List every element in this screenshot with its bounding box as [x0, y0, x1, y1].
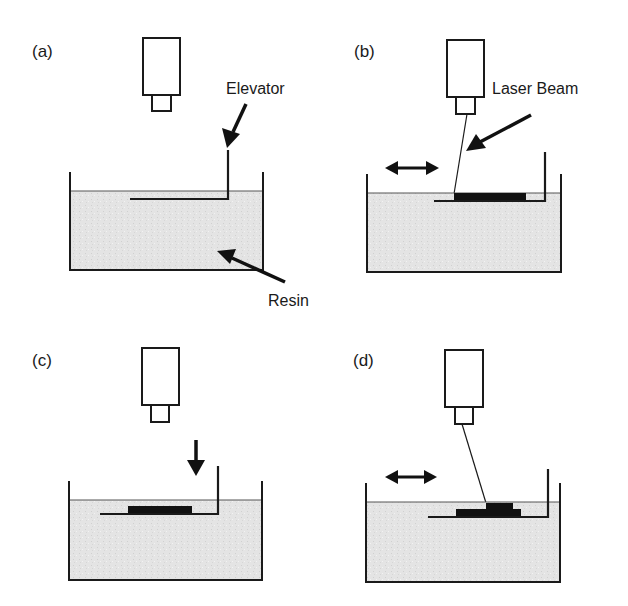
panel-b: (b) Laser Beam: [354, 40, 578, 272]
panel-label-a: (a): [32, 42, 53, 61]
elevator-label: Elevator: [226, 80, 285, 97]
double-arrow-icon: [385, 470, 437, 484]
laser-beam-line: [462, 424, 486, 503]
panel-label-c: (c): [32, 351, 52, 370]
laser-unit-icon: [445, 350, 483, 424]
resin-label: Resin: [268, 292, 309, 309]
down-arrow-icon: [187, 440, 205, 476]
resin-vat: [69, 481, 262, 580]
panel-a: (a) Elevator Resin: [32, 38, 309, 309]
cured-layer-2: [486, 503, 513, 510]
cured-layer-1: [128, 506, 192, 513]
laser-unit-icon: [143, 38, 180, 111]
resin-vat: [367, 174, 561, 272]
laser-beam-line: [454, 114, 467, 194]
resin-fill: [368, 193, 561, 272]
laser-beam-arrow-icon: [466, 115, 531, 151]
laser-unit-icon: [447, 40, 484, 114]
cured-layer-1: [454, 193, 526, 200]
stereolithography-diagram: (a) Elevator Resin (b): [0, 0, 628, 606]
laser-unit-icon: [142, 348, 179, 422]
panel-label-b: (b): [354, 42, 375, 61]
panel-c: (c): [32, 348, 262, 580]
double-arrow-icon: [385, 161, 439, 175]
elevator-arrow-icon: [222, 104, 246, 148]
resin-vat: [366, 483, 560, 582]
panel-d: (d): [353, 350, 560, 582]
laser-beam-label: Laser Beam: [492, 80, 578, 97]
panel-label-d: (d): [353, 351, 374, 370]
resin-vat: [70, 172, 263, 270]
cured-layer-1: [456, 509, 521, 517]
